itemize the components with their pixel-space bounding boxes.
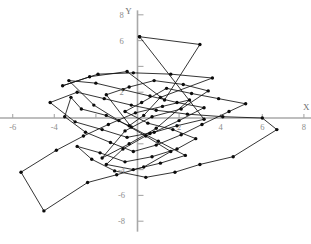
data-point (117, 119, 120, 122)
data-point (132, 150, 135, 153)
data-point (159, 96, 162, 99)
data-point (105, 114, 108, 117)
data-point (221, 115, 224, 118)
y-tick-label: 8 (119, 10, 123, 20)
data-point (19, 170, 22, 173)
data-point (125, 136, 128, 139)
data-point (123, 160, 126, 163)
y-tick-label: 2 (119, 87, 123, 97)
data-point (150, 155, 153, 158)
data-point (67, 79, 70, 82)
x-tick-label: 2 (177, 122, 181, 132)
x-tick-label: -4 (51, 122, 59, 132)
data-point (182, 83, 185, 86)
data-point (113, 169, 116, 172)
data-point (94, 81, 97, 84)
data-point (179, 107, 182, 110)
x-tick-label: 4 (219, 122, 224, 132)
data-point (96, 72, 99, 75)
data-point (121, 147, 124, 150)
data-point (231, 155, 234, 158)
data-point (69, 96, 72, 99)
x-tick-label: 8 (302, 122, 306, 132)
data-point (142, 114, 145, 117)
data-point (107, 123, 110, 126)
data-point (155, 127, 158, 130)
data-point (159, 161, 162, 164)
data-point (75, 91, 78, 94)
data-point (61, 84, 64, 87)
data-point (127, 142, 130, 145)
data-point (73, 120, 76, 123)
data-point (109, 141, 112, 144)
scatter-plot-figure: -6-42468862-4-6-8XY (0, 0, 311, 244)
data-point (90, 158, 93, 161)
data-point (86, 181, 89, 184)
data-point (275, 128, 278, 131)
data-point (200, 123, 203, 126)
data-point (175, 101, 178, 104)
data-point (92, 103, 95, 106)
data-point (217, 97, 220, 100)
data-point (179, 133, 182, 136)
data-point (202, 118, 205, 121)
data-point (132, 168, 135, 171)
data-point (123, 129, 126, 132)
data-point (148, 132, 151, 135)
data-point (169, 72, 172, 75)
x-tick-label: -6 (9, 122, 16, 132)
data-point (157, 140, 160, 143)
data-point (261, 116, 264, 119)
data-point (207, 89, 210, 92)
data-point (169, 150, 172, 153)
data-point (84, 130, 87, 133)
data-point (184, 154, 187, 157)
data-point (142, 165, 145, 168)
y-tick-label: 6 (119, 36, 123, 46)
data-point (138, 35, 141, 38)
data-point (82, 134, 85, 137)
data-point (80, 107, 83, 110)
data-point (211, 76, 214, 79)
data-point (194, 137, 197, 140)
data-point (130, 103, 133, 106)
data-point (134, 111, 137, 114)
data-point (173, 170, 176, 173)
x-axis-title: X (303, 102, 310, 112)
data-point (161, 105, 164, 108)
data-point (103, 97, 106, 100)
data-point (186, 112, 189, 115)
plot-canvas: -6-42468862-4-6-8XY (0, 0, 311, 244)
data-point (148, 94, 151, 97)
y-tick-label: -6 (118, 190, 125, 200)
data-point (155, 143, 158, 146)
data-point (198, 163, 201, 166)
data-point (127, 85, 130, 88)
data-point (144, 176, 147, 179)
data-point (140, 101, 143, 104)
y-tick-label: -8 (118, 216, 125, 226)
data-point (244, 102, 247, 105)
data-point (48, 101, 51, 104)
data-point (144, 134, 147, 137)
data-point (146, 121, 149, 124)
data-point (88, 75, 91, 78)
data-point (175, 147, 178, 150)
data-point (75, 145, 78, 148)
data-point (55, 149, 58, 152)
data-point (190, 92, 193, 95)
data-series-layer (19, 35, 278, 213)
data-point (227, 110, 230, 113)
data-point (171, 128, 174, 131)
data-point (165, 87, 168, 90)
data-point (98, 151, 101, 154)
data-point (163, 98, 166, 101)
data-point (155, 109, 158, 112)
data-point (202, 106, 205, 109)
data-point (188, 98, 191, 101)
data-point (100, 128, 103, 131)
y-tick-label: -4 (118, 165, 126, 175)
data-point (152, 130, 155, 133)
axes-layer (0, 10, 311, 231)
data-point (130, 125, 133, 128)
